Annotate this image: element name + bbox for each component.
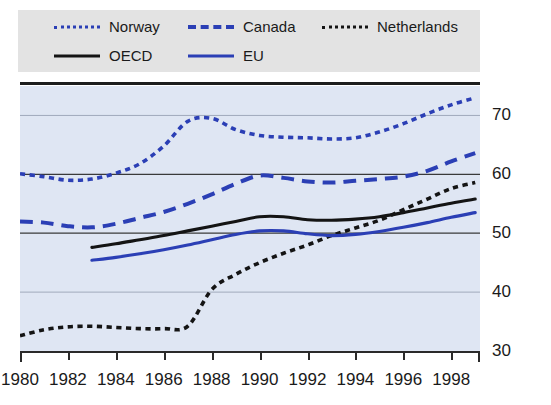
legend-label-norway: Norway [109, 18, 160, 35]
x-tick-label-1984: 1984 [97, 370, 135, 390]
canada-line-swatch-icon [188, 20, 234, 34]
y-tick-label-50: 50 [492, 223, 511, 243]
legend-label-canada: Canada [243, 18, 296, 35]
x-tick-1980 [20, 351, 22, 362]
legend-item-norway[interactable]: Norway [54, 13, 160, 40]
x-tick-label-1988: 1988 [193, 370, 231, 390]
x-tick-1986 [164, 351, 166, 360]
x-tick-label-1990: 1990 [241, 370, 279, 390]
x-tick-1990 [260, 351, 262, 360]
legend-item-canada[interactable]: Canada [188, 13, 296, 40]
x-tick-label-1980: 1980 [1, 370, 39, 390]
y-tick-label-40: 40 [492, 282, 511, 302]
x-tick-label-1998: 1998 [432, 370, 470, 390]
x-tick-1988 [212, 351, 214, 360]
y-tick-label-30: 30 [492, 341, 511, 361]
series-line-netherlands [20, 183, 475, 336]
legend-row-1: Norway Canada Netherlands [18, 13, 480, 40]
cropped-title-strip [0, 0, 551, 10]
series-line-canada [20, 153, 475, 227]
chart-legend: Norway Canada Netherlands OECD EU [18, 10, 480, 72]
plot-top-border [20, 82, 480, 85]
netherlands-line-swatch-icon [322, 20, 368, 34]
legend-label-eu: EU [243, 47, 264, 64]
x-tick-label-1996: 1996 [384, 370, 422, 390]
y-tick-label-70: 70 [492, 105, 511, 125]
legend-label-netherlands: Netherlands [377, 18, 458, 35]
x-tick-1996 [403, 351, 405, 360]
legend-item-oecd[interactable]: OECD [54, 42, 152, 69]
x-axis-line [20, 351, 480, 353]
x-tick-label-1992: 1992 [289, 370, 327, 390]
x-tick-1992 [308, 351, 310, 360]
x-tick-1994 [355, 351, 357, 360]
x-tick-1998 [451, 351, 453, 360]
x-tick-1984 [116, 351, 118, 360]
legend-row-2: OECD EU [18, 42, 480, 69]
chart-canvas [20, 86, 480, 351]
x-tick-label-1982: 1982 [49, 370, 87, 390]
x-tick-1982 [68, 351, 70, 360]
x-tick-label-1994: 1994 [336, 370, 374, 390]
x-tick-label-1986: 1986 [145, 370, 183, 390]
y-tick-label-60: 60 [492, 164, 511, 184]
x-axis-right-edge-tick [478, 351, 480, 362]
oecd-line-swatch-icon [54, 49, 100, 63]
plot-area [20, 86, 480, 351]
eu-line-swatch-icon [188, 49, 234, 63]
legend-label-oecd: OECD [109, 47, 152, 64]
chart-figure: Norway Canada Netherlands OECD EU [0, 0, 551, 405]
legend-item-netherlands[interactable]: Netherlands [322, 13, 458, 40]
norway-line-swatch-icon [54, 20, 100, 34]
legend-item-eu[interactable]: EU [188, 42, 264, 69]
series-line-norway [20, 98, 475, 181]
